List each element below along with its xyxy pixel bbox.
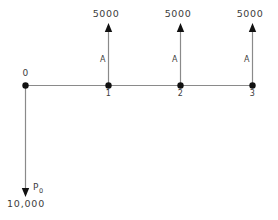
- period-label-1: 1: [106, 89, 111, 98]
- outflow-amount-label: 10,000: [7, 198, 45, 209]
- timeline-node-3: [249, 82, 255, 88]
- series-label-1: A: [100, 55, 106, 64]
- series-label-3: A: [244, 55, 250, 64]
- inflow-arrow-head-icon-3: [249, 23, 256, 32]
- inflow-arrow-head-icon-2: [177, 23, 184, 32]
- inflow-amount-label-1: 5000: [93, 8, 120, 19]
- period-label-0: 0: [22, 68, 28, 78]
- series-label-2: A: [172, 55, 178, 64]
- timeline-node-2: [177, 82, 183, 88]
- outflow-symbol-subscript: 0: [39, 187, 44, 195]
- cash-flow-diagram: 0 P0 10,000 5000 A 1 5000 A 2 5000 A 3: [0, 0, 278, 220]
- timeline-node-1: [105, 82, 111, 88]
- inflow-arrow-head-icon-1: [105, 23, 112, 32]
- period-label-2: 2: [178, 89, 183, 98]
- period-label-3: 3: [250, 89, 255, 98]
- outflow-arrow-head-icon: [22, 188, 29, 197]
- inflow-amount-label-3: 5000: [237, 8, 264, 19]
- inflow-amount-label-2: 5000: [165, 8, 192, 19]
- cash-flow-canvas: 0 P0 10,000 5000 A 1 5000 A 2 5000 A 3: [0, 0, 278, 220]
- outflow-symbol-label: P0: [33, 182, 44, 195]
- timeline-node-0: [22, 82, 28, 88]
